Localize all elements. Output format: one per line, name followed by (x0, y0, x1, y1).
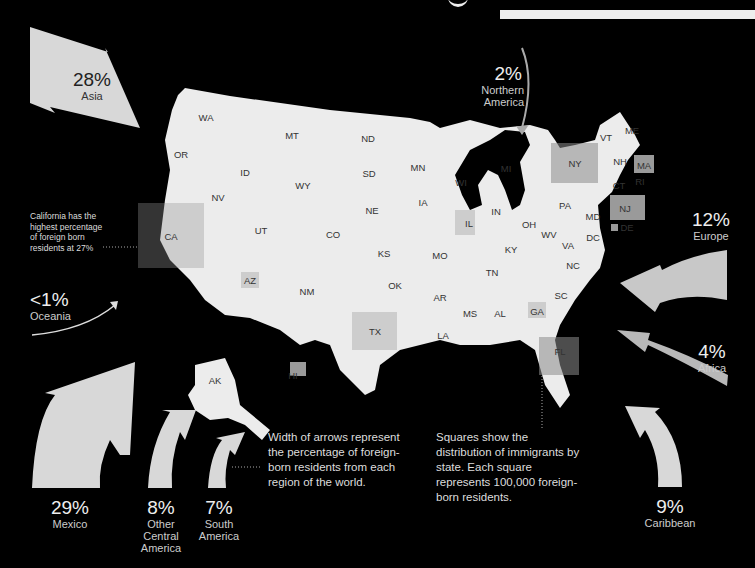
state-label-tn: TN (486, 267, 499, 278)
region-label-other-central-america: 8% Other Central America (136, 498, 186, 554)
state-label-ms: MS (463, 308, 477, 319)
state-label-nm: NM (300, 286, 315, 297)
state-label-nv: NV (211, 192, 224, 203)
south-america-arrow (208, 432, 245, 488)
state-label-nj: NJ (619, 203, 631, 214)
region-name: Caribbean (640, 517, 700, 529)
arrows-note: Width of arrows represent the percentage… (268, 430, 408, 490)
region-percent: 7% (194, 498, 244, 518)
state-label-vt: VT (600, 132, 612, 143)
region-name: Mexico (40, 518, 100, 530)
state-label-va: VA (562, 240, 574, 251)
region-label-northern-america: 2% Northern America (462, 64, 522, 108)
state-label-nd: ND (361, 133, 375, 144)
state-label-me: ME (625, 125, 639, 136)
state-label-ak: AK (209, 375, 222, 386)
state-label-ne: NE (365, 205, 378, 216)
region-percent: 9% (640, 497, 700, 517)
de-square (611, 224, 618, 231)
region-name: South America (194, 518, 244, 542)
state-label-mn: MN (411, 162, 426, 173)
state-label-ok: OK (388, 280, 402, 291)
state-label-al: AL (494, 308, 506, 319)
state-label-mt: MT (285, 130, 299, 141)
state-label-sc: SC (554, 290, 567, 301)
region-name: Europe (686, 230, 736, 242)
region-percent: <1% (30, 290, 90, 310)
state-label-wv: WV (541, 229, 556, 240)
squares-note: Squares show the distribution of immigra… (436, 430, 586, 505)
alaska-shape (188, 358, 270, 440)
state-label-az: AZ (244, 275, 256, 286)
state-label-or: OR (174, 149, 188, 160)
region-label-mexico: 29% Mexico (40, 498, 100, 530)
state-label-sd: SD (362, 168, 375, 179)
california-note: California has the highest percentage of… (30, 211, 110, 253)
state-label-dc: DC (586, 232, 600, 243)
caribbean-arrow (625, 406, 682, 487)
state-label-ar: AR (433, 292, 446, 303)
state-label-mo: MO (432, 250, 447, 261)
state-label-ct: CT (613, 180, 626, 191)
state-label-ky: KY (505, 244, 518, 255)
state-label-tx: TX (369, 326, 381, 337)
region-name: Africa (692, 362, 732, 374)
state-label-ma: MA (637, 160, 651, 171)
state-label-nc: NC (566, 260, 580, 271)
state-label-md: MD (586, 211, 601, 222)
state-label-oh: OH (522, 219, 536, 230)
other-central-america-arrow (148, 410, 196, 488)
region-name: Asia (62, 90, 122, 102)
state-label-wy: WY (295, 180, 310, 191)
region-percent: 4% (692, 342, 732, 362)
state-label-in: IN (491, 206, 501, 217)
mexico-arrow (32, 362, 135, 488)
state-label-de: DE (620, 222, 633, 233)
state-label-nh: NH (613, 156, 627, 167)
state-label-ut: UT (255, 225, 268, 236)
region-label-asia: 28% Asia (62, 70, 122, 102)
state-label-ny: NY (568, 158, 581, 169)
region-label-africa: 4% Africa (692, 342, 732, 374)
state-label-ga: GA (530, 306, 544, 317)
state-label-pa: PA (559, 200, 571, 211)
region-label-caribbean: 9% Caribbean (640, 497, 700, 529)
region-name: Other Central America (136, 518, 186, 554)
state-label-il: IL (465, 218, 473, 229)
region-label-south-america: 7% South America (194, 498, 244, 542)
state-label-la: LA (437, 330, 449, 341)
region-label-oceania: <1% Oceania (30, 290, 90, 322)
state-label-ca: CA (164, 231, 177, 242)
state-label-wa: WA (199, 112, 214, 123)
state-label-hi: HI (288, 370, 298, 381)
state-label-wi: WI (455, 177, 467, 188)
state-label-ia: IA (419, 197, 428, 208)
state-label-id: ID (240, 167, 250, 178)
state-label-ri: RI (635, 176, 645, 187)
region-name: Oceania (30, 310, 90, 322)
state-label-fl: FL (554, 346, 565, 357)
region-name: Northern America (474, 84, 524, 108)
state-label-co: CO (326, 229, 340, 240)
europe-arrow (620, 250, 727, 312)
region-percent: 29% (40, 498, 100, 518)
region-percent: 2% (462, 64, 522, 84)
region-percent: 8% (136, 498, 186, 518)
region-percent: 28% (62, 70, 122, 90)
state-label-ks: KS (378, 248, 391, 259)
state-label-mi: MI (501, 163, 512, 174)
region-percent: 12% (686, 210, 736, 230)
region-label-europe: 12% Europe (686, 210, 736, 242)
